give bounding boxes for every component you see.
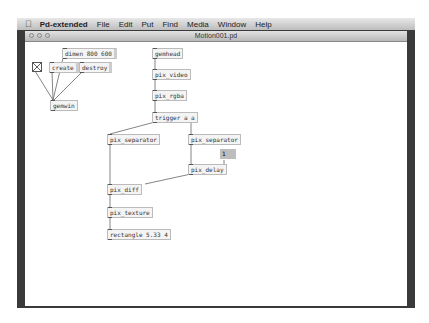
patch-canvas[interactable]: dimen 800 600 create destroy gemwin gemh…	[25, 42, 407, 306]
rectangle-object[interactable]: rectangle 5.33 4	[107, 229, 171, 240]
window-title: Motion001.pd	[25, 31, 407, 41]
pix-separator-right-object[interactable]: pix_separator	[188, 134, 241, 145]
menu-app-name[interactable]: Pd-extended	[40, 20, 88, 29]
pix-separator-left-object[interactable]: pix_separator	[107, 134, 160, 145]
toggle[interactable]	[32, 62, 42, 72]
dimen-message[interactable]: dimen 800 600	[62, 48, 117, 59]
gemhead-object[interactable]: gemhead	[152, 48, 183, 59]
menu-help[interactable]: Help	[255, 20, 271, 29]
menu-file[interactable]: File	[97, 20, 110, 29]
window-titlebar[interactable]: Motion001.pd	[25, 31, 407, 42]
apple-icon[interactable]: 	[25, 19, 32, 29]
pix-rgba-object[interactable]: pix_rgba	[152, 90, 187, 101]
number-box[interactable]: 1	[220, 149, 236, 159]
trigger-object[interactable]: trigger a a	[152, 112, 198, 123]
gemwin-object[interactable]: gemwin	[50, 100, 78, 111]
pix-texture-object[interactable]: pix_texture	[107, 207, 153, 218]
patch-window: Motion001.pd	[25, 31, 407, 306]
toggle-x-icon	[33, 63, 41, 71]
pix-video-object[interactable]: pix_video	[152, 69, 191, 80]
screen:  Pd-extended File Edit Put Find Media W…	[17, 18, 415, 308]
destroy-message[interactable]: destroy	[79, 62, 112, 73]
menu-edit[interactable]: Edit	[119, 20, 133, 29]
pix-diff-object[interactable]: pix_diff	[107, 184, 142, 195]
menubar:  Pd-extended File Edit Put Find Media W…	[17, 18, 415, 30]
menu-put[interactable]: Put	[141, 20, 153, 29]
create-message[interactable]: create	[49, 62, 79, 73]
menu-window[interactable]: Window	[218, 20, 246, 29]
menu-media[interactable]: Media	[187, 20, 209, 29]
pix-delay-object[interactable]: pix_delay	[188, 164, 227, 175]
menu-find[interactable]: Find	[162, 20, 178, 29]
